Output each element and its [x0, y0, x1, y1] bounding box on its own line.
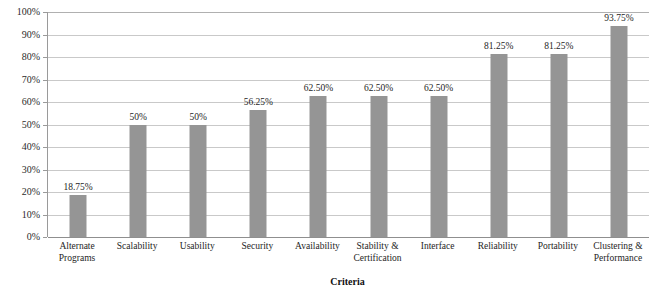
- x-axis-category-label: Interface: [408, 241, 468, 253]
- x-axis-category-line: Programs: [47, 253, 107, 265]
- bar-value-label: 50%: [190, 112, 207, 122]
- x-axis-category-label: Scalability: [107, 241, 167, 253]
- bar-value-label: 62.50%: [364, 83, 393, 93]
- x-axis-category-label: Availability: [287, 241, 347, 253]
- bar-value-label: 18.75%: [63, 182, 92, 192]
- bar-group: 81.25%: [529, 12, 589, 237]
- x-axis-category-line: Performance: [588, 253, 648, 265]
- x-axis-category-line: Certification: [348, 253, 408, 265]
- bar-value-label: 50%: [129, 112, 146, 122]
- bar: [130, 125, 147, 238]
- bar-group: 62.50%: [349, 12, 409, 237]
- y-axis-tick-label: 50%: [0, 120, 40, 130]
- x-axis-category-line: Clustering &: [588, 241, 648, 253]
- y-axis-tick-mark: [43, 80, 47, 81]
- y-axis-tick-mark: [43, 215, 47, 216]
- x-axis-category-line: Stability &: [348, 241, 408, 253]
- x-axis-category-line: Availability: [287, 241, 347, 253]
- x-axis-category-label: Clustering &Performance: [588, 241, 648, 264]
- bar-group: 18.75%: [48, 12, 108, 237]
- y-axis-tick-mark: [43, 170, 47, 171]
- y-axis-tick-label: 80%: [0, 52, 40, 62]
- x-axis-category-label: Portability: [528, 241, 588, 253]
- y-axis-tick-label: 0%: [0, 232, 40, 242]
- y-axis-tick-label: 90%: [0, 30, 40, 40]
- y-axis-tick-mark: [43, 57, 47, 58]
- y-axis-tick-label: 60%: [0, 97, 40, 107]
- x-axis-category-line: Reliability: [468, 241, 528, 253]
- bar-group: 50%: [168, 12, 228, 237]
- y-axis-tick-mark: [43, 12, 47, 13]
- bar: [190, 125, 207, 238]
- y-axis-tick-mark: [43, 35, 47, 36]
- bar: [250, 110, 267, 237]
- bar-value-label: 62.50%: [424, 83, 453, 93]
- x-axis-category-label: Usability: [167, 241, 227, 253]
- bar-group: 62.50%: [288, 12, 348, 237]
- y-axis-tick-mark: [43, 125, 47, 126]
- bar-group: 62.50%: [409, 12, 469, 237]
- x-axis-category-line: Usability: [167, 241, 227, 253]
- bar-value-label: 81.25%: [544, 41, 573, 51]
- bar-value-label: 62.50%: [304, 83, 333, 93]
- y-axis-tick-mark: [43, 147, 47, 148]
- bar-group: 93.75%: [589, 12, 649, 237]
- x-axis-category-label: Security: [227, 241, 287, 253]
- x-axis-category-line: Interface: [408, 241, 468, 253]
- bar: [370, 96, 387, 237]
- bar: [550, 54, 567, 237]
- y-axis-tick-label: 20%: [0, 187, 40, 197]
- y-axis-tick-label: 40%: [0, 142, 40, 152]
- y-axis: 0%10%20%30%40%50%60%70%80%90%100%: [0, 0, 40, 296]
- bar-value-label: 56.25%: [244, 97, 273, 107]
- plot-area: 18.75%50%50%56.25%62.50%62.50%62.50%81.2…: [47, 12, 648, 237]
- bar: [310, 96, 327, 237]
- x-axis-category-label: Stability &Certification: [348, 241, 408, 264]
- x-axis-category-line: Security: [227, 241, 287, 253]
- y-axis-tick-label: 30%: [0, 165, 40, 175]
- x-axis-category-line: Alternate: [47, 241, 107, 253]
- bar-group: 56.25%: [228, 12, 288, 237]
- y-axis-tick-label: 10%: [0, 210, 40, 220]
- y-axis-tick-mark: [43, 192, 47, 193]
- x-axis-category-line: Scalability: [107, 241, 167, 253]
- bar: [70, 195, 87, 237]
- x-axis-category-labels: AlternateProgramsScalabilityUsabilitySec…: [47, 241, 648, 275]
- bar-value-label: 81.25%: [484, 41, 513, 51]
- y-axis-tick-mark: [43, 237, 47, 238]
- bar-group: 81.25%: [469, 12, 529, 237]
- y-axis-tick-label: 70%: [0, 75, 40, 85]
- x-axis-title: Criteria: [47, 276, 648, 287]
- y-axis-tick-mark: [43, 102, 47, 103]
- bar-chart: 0%10%20%30%40%50%60%70%80%90%100% 18.75%…: [0, 0, 656, 296]
- bar: [610, 26, 627, 237]
- x-axis-category-label: Reliability: [468, 241, 528, 253]
- x-axis-line: [48, 237, 649, 238]
- x-axis-category-line: Portability: [528, 241, 588, 253]
- x-axis-category-label: AlternatePrograms: [47, 241, 107, 264]
- bar: [430, 96, 447, 237]
- bar-value-label: 93.75%: [604, 13, 633, 23]
- bar: [490, 54, 507, 237]
- bar-group: 50%: [108, 12, 168, 237]
- y-axis-tick-label: 100%: [0, 7, 40, 17]
